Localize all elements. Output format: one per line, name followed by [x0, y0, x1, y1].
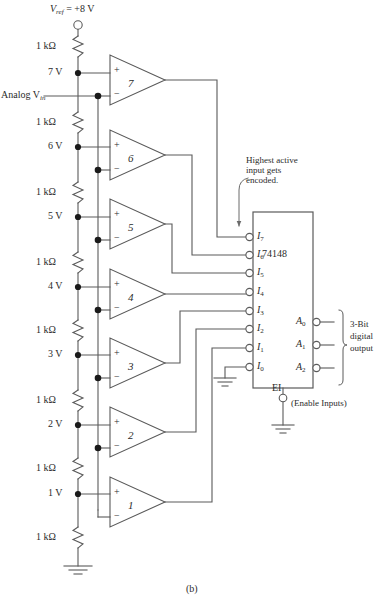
encoder-chip-name: 74148 — [262, 248, 287, 259]
resistor-label: 1 kΩ — [36, 186, 56, 197]
encoder-input-label-I1: I1 — [257, 341, 264, 354]
ladder-ground-symbol — [64, 566, 92, 574]
digital-output-caption: 3-Bit digital output — [350, 318, 373, 354]
comparator-plus-pin: + — [114, 208, 120, 219]
comparator-minus-pin: − — [114, 88, 120, 99]
tap-voltage-label: 2 V — [48, 418, 63, 429]
output-caption-line-1: 3-Bit — [350, 318, 373, 330]
comparator-number: 6 — [128, 152, 134, 164]
wire-c5-to-I5 — [165, 224, 246, 273]
circuit-schematic — [0, 0, 392, 605]
comparator-plus-pin: + — [114, 64, 120, 75]
output-brace — [339, 310, 347, 385]
vref-label: Vref = +8 V — [50, 3, 94, 16]
encoder-output-label-A0: A0 — [296, 315, 306, 328]
encoder-input-label-I2: I2 — [257, 322, 264, 335]
comparator-number: 2 — [128, 429, 134, 441]
comparator-minus-pin: − — [114, 232, 120, 243]
tap-voltage-label: 6 V — [48, 140, 63, 151]
encoder-input-label-I5: I5 — [257, 266, 264, 279]
wire-c3-to-I3 — [165, 311, 246, 363]
resistor-label: 1 kΩ — [36, 324, 56, 335]
resistor-label: 1 kΩ — [36, 462, 56, 473]
comparator-minus-pin: − — [114, 510, 120, 521]
i0-ground-symbol — [214, 378, 236, 386]
tap-voltage-label: 3 V — [48, 348, 63, 359]
encoder-input-label-I4: I4 — [257, 285, 264, 298]
ei-ground-symbol — [272, 425, 294, 433]
junction-dots — [75, 70, 101, 497]
enable-input-note: (Enable Inputs) — [291, 398, 347, 408]
tap-voltage-label: 5 V — [48, 210, 63, 221]
encoder-input-label-I0: I0 — [257, 360, 264, 373]
encoder-output-label-A1: A1 — [296, 338, 306, 351]
comparator-number: 5 — [128, 221, 134, 233]
analog-vin-label: Analog Vin — [1, 89, 45, 102]
annotation-text: Highest active input gets encoded. — [246, 155, 298, 185]
ei-pin-circle — [279, 394, 287, 402]
vref-terminal-node — [74, 21, 82, 29]
resistor-label: 1 kΩ — [36, 40, 56, 51]
enable-input-label: EI — [272, 382, 281, 393]
annotation-line-2: input gets — [246, 165, 298, 175]
adc-flash-circuit-figure: Vref = +8 V Analog Vin 1 kΩ 1 kΩ 1 kΩ 1 … — [0, 0, 392, 605]
comparator-minus-pin: − — [114, 163, 120, 174]
wire-c6-to-I6 — [165, 155, 246, 255]
comparator-plus-pin: + — [114, 278, 120, 289]
encoder-output-label-A2: A2 — [296, 361, 306, 374]
comparator-plus-pin: + — [114, 139, 120, 150]
figure-caption: (b) — [186, 583, 198, 594]
wire-c7-to-I7 — [165, 80, 246, 237]
encoder-output-pins — [313, 318, 320, 371]
comparator-number: 4 — [128, 291, 134, 303]
wire-I0-to-ground — [225, 367, 246, 378]
annotation-line-1: Highest active — [246, 155, 298, 165]
tap-voltage-label: 7 V — [48, 66, 63, 77]
encoder-input-label-I7: I7 — [257, 230, 264, 243]
tap-voltage-label: 1 V — [48, 487, 63, 498]
comparator-plus-pin: + — [114, 486, 120, 497]
comparator-minus-pin: − — [114, 371, 120, 382]
comparator-number: 7 — [128, 77, 134, 89]
output-caption-line-3: output — [350, 342, 373, 354]
annotation-line-3: encoded. — [246, 175, 298, 185]
comparator-plus-pin: + — [114, 416, 120, 427]
comparator-plus-pin: + — [114, 347, 120, 358]
output-caption-line-2: digital — [350, 330, 373, 342]
resistor-label: 1 kΩ — [36, 116, 56, 127]
encoder-input-pins — [246, 233, 253, 370]
resistor-label: 1 kΩ — [36, 394, 56, 405]
comparator-minus-pin: − — [114, 440, 120, 451]
resistor-label: 1 kΩ — [36, 531, 56, 542]
tap-voltage-label: 4 V — [48, 280, 63, 291]
comparator-number: 1 — [128, 499, 134, 511]
resistor-label: 1 kΩ — [36, 256, 56, 267]
wire-c2-to-I2 — [165, 329, 246, 432]
annotation-leader-arrow — [239, 178, 248, 226]
encoder-input-label-I3: I3 — [257, 304, 264, 317]
comparator-number: 3 — [128, 360, 134, 372]
wire-c1-to-I1 — [165, 348, 246, 502]
comparator-minus-pin: − — [114, 302, 120, 313]
comparator-bodies — [110, 55, 165, 527]
